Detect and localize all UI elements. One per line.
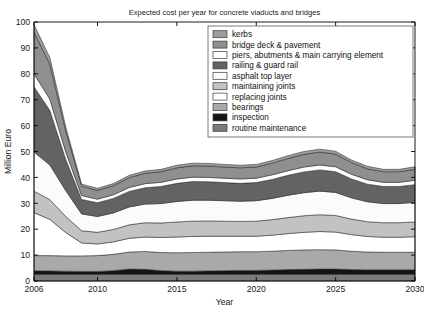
area-band-routine-maintenance xyxy=(34,274,415,281)
x-axis-label: Year xyxy=(216,297,234,307)
legend-label-1: bridge deck & pavement xyxy=(232,41,321,50)
ytick-label-60: 60 xyxy=(20,121,30,131)
ytick-label-20: 20 xyxy=(20,224,30,234)
legend-swatch-6 xyxy=(213,93,227,100)
legend-label-4: asphalt top layer xyxy=(232,72,292,81)
ytick-label-100: 100 xyxy=(16,17,31,27)
legend-swatch-0 xyxy=(213,31,227,38)
legend-label-3: railing & guard rail xyxy=(232,61,298,70)
legend-swatch-1 xyxy=(213,41,227,48)
legend-label-2: piers, abutments & main carrying element xyxy=(232,51,384,60)
legend-label-5: maintaining joints xyxy=(232,82,295,91)
legend-swatch-4 xyxy=(213,72,227,79)
legend: kerbsbridge deck & pavementpiers, abutme… xyxy=(208,26,413,137)
ytick-label-80: 80 xyxy=(20,69,30,79)
xtick-label-2015: 2015 xyxy=(167,284,186,294)
legend-swatch-7 xyxy=(213,104,227,111)
xtick-label-2006: 2006 xyxy=(24,284,43,294)
xtick-label-2020: 2020 xyxy=(247,284,266,294)
legend-swatch-9 xyxy=(213,124,227,131)
ytick-label-10: 10 xyxy=(20,250,30,260)
ytick-label-50: 50 xyxy=(20,147,30,157)
legend-swatch-5 xyxy=(213,83,227,90)
legend-swatch-2 xyxy=(213,52,227,59)
ytick-label-40: 40 xyxy=(20,173,30,183)
legend-label-8: inspection xyxy=(232,113,269,122)
y-axis-label: Million Euro xyxy=(3,129,13,174)
legend-label-9: routine maintenance xyxy=(232,124,307,133)
xtick-label-2025: 2025 xyxy=(326,284,345,294)
legend-label-7: bearings xyxy=(232,103,263,112)
ytick-label-30: 30 xyxy=(20,199,30,209)
stacked-area-chart: 0102030405060708090100200620102015202020… xyxy=(0,0,424,319)
xtick-label-2030: 2030 xyxy=(405,284,424,294)
legend-swatch-3 xyxy=(213,62,227,69)
ytick-label-90: 90 xyxy=(20,43,30,53)
chart-title: Expected cost per year for concrete viad… xyxy=(129,8,321,17)
xtick-label-2010: 2010 xyxy=(88,284,107,294)
chart-figure: 0102030405060708090100200620102015202020… xyxy=(0,0,424,319)
ytick-label-70: 70 xyxy=(20,95,30,105)
legend-label-6: replacing joints xyxy=(232,93,287,102)
legend-swatch-8 xyxy=(213,114,227,121)
legend-label-0: kerbs xyxy=(232,30,252,39)
